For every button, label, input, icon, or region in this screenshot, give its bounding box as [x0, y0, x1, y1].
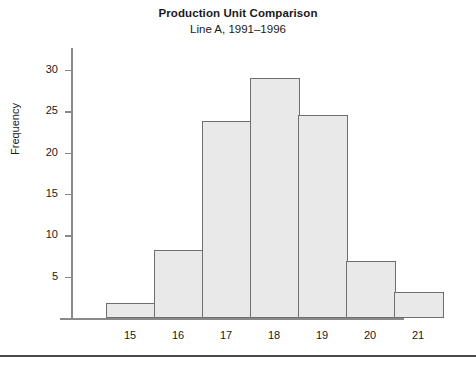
y-axis-line [71, 48, 73, 319]
x-tick-label: 17 [202, 329, 250, 341]
x-tick-label: 19 [298, 329, 346, 341]
bar [154, 250, 204, 318]
x-tick-label: 15 [106, 329, 154, 341]
y-axis-title: Frequency [9, 103, 21, 155]
x-tick-label: 16 [154, 329, 202, 341]
y-tick-label: 20 [36, 147, 58, 158]
footer-divider [0, 355, 476, 357]
y-tick-label: 15 [36, 188, 58, 199]
y-tick-mark [65, 194, 71, 196]
x-tick-label: 20 [346, 329, 394, 341]
y-tick-mark [65, 111, 71, 113]
bar [250, 78, 300, 318]
bar [394, 292, 444, 318]
bar [106, 303, 156, 318]
x-tick-label: 18 [250, 329, 298, 341]
x-tick-label: 21 [394, 329, 442, 341]
y-tick-label: 10 [36, 229, 58, 240]
x-axis-line [60, 318, 404, 320]
y-tick-mark [65, 277, 71, 279]
y-tick-label: 5 [36, 271, 58, 282]
y-tick-label: 30 [36, 64, 58, 75]
bar [202, 121, 252, 318]
plot-area: Frequency 51015202530 15161718192021 [0, 0, 476, 369]
bar [298, 115, 348, 318]
y-tick-mark [65, 70, 71, 72]
y-tick-mark [65, 235, 71, 237]
y-tick-label: 25 [36, 105, 58, 116]
histogram-chart: Production Unit Comparison Line A, 1991–… [0, 0, 476, 369]
bar [346, 261, 396, 318]
y-tick-mark [65, 153, 71, 155]
